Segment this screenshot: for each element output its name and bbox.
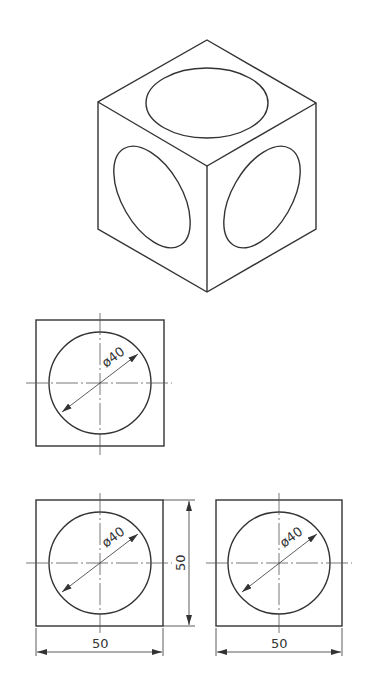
front-view-width-label: 50 — [92, 636, 109, 651]
top-view-diameter-label: ø40 — [99, 344, 128, 371]
left-face-ellipse — [98, 134, 206, 261]
cube-inner-edges — [98, 102, 316, 166]
side-view-width-label: 50 — [271, 636, 288, 651]
front-view-height-label: 50 — [173, 554, 188, 571]
top-view: ø40 — [26, 313, 172, 456]
front-view-diameter-label: ø40 — [99, 524, 128, 551]
drawing-canvas: ø40 ø40 50 50 ø40 — [0, 0, 375, 686]
side-view: ø40 50 — [206, 493, 352, 656]
front-view: ø40 50 50 — [26, 493, 195, 656]
isometric-view — [98, 40, 316, 292]
right-face-ellipse — [208, 134, 316, 261]
front-view-centerlines — [26, 493, 172, 633]
top-face-ellipse — [146, 68, 268, 138]
